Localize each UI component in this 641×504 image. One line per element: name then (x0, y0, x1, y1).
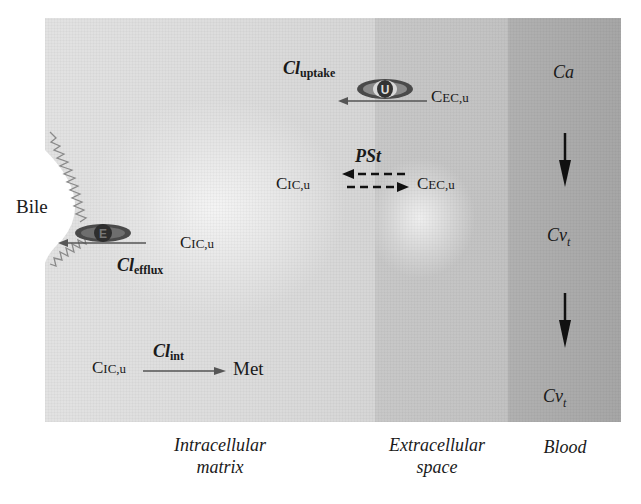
intracellular-label: Intracellular matrix (150, 434, 290, 478)
cl-int-label: Clint (153, 341, 184, 364)
diffusion-left-conc: CIC,u (276, 174, 310, 194)
uptake-arrowhead-icon (338, 97, 348, 105)
diffusion-right-conc: CEC,u (417, 174, 455, 194)
uptake-source-conc: CEC,u (431, 87, 469, 107)
venous-conc-bottom: Cvt (543, 386, 566, 411)
blood-label: Blood (525, 436, 605, 458)
cl-uptake-label: Cluptake (283, 58, 335, 81)
efflux-source-conc: CIC,u (180, 233, 214, 253)
extracellular-label: Extracellular space (372, 434, 502, 478)
svg-text:E: E (99, 227, 107, 241)
efflux-transporter-icon: E (75, 224, 131, 242)
metabolism-arrowhead-icon (214, 367, 226, 375)
arterial-conc: Ca (553, 62, 574, 83)
venous-conc-middle: Cvt (547, 225, 570, 250)
blood-flow-arrowhead-1-icon (559, 160, 571, 187)
uptake-transporter-icon: U (357, 79, 413, 99)
bile-label: Bile (16, 196, 48, 218)
metabolism-substrate-conc: CIC,u (92, 358, 126, 378)
diffusion-arrowhead-right-icon (397, 182, 409, 192)
cl-efflux-label: Clefflux (117, 255, 163, 278)
pst-label: PSt (355, 146, 381, 167)
diffusion-arrowhead-left-icon (342, 169, 354, 179)
metabolite-label: Met (233, 358, 264, 380)
svg-text:U: U (381, 83, 390, 97)
blood-flow-arrowhead-2-icon (559, 320, 571, 348)
